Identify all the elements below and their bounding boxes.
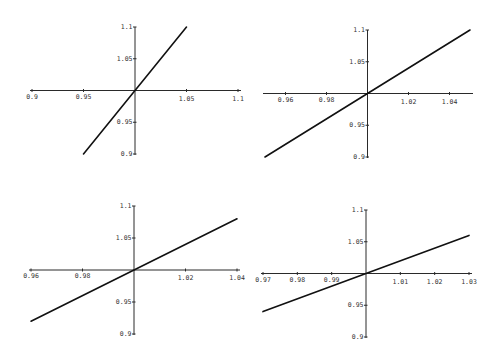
x-tick-label: 0.9 (26, 93, 38, 101)
x-tick-label: 0.99 (324, 276, 340, 284)
x-tick-label: 1.02 (401, 98, 417, 106)
x-tick-label: 1.04 (442, 98, 458, 106)
y-tick-label: 1.05 (116, 234, 132, 242)
x-tick-label: 0.96 (278, 96, 294, 104)
x-tick-label: 1.01 (393, 278, 409, 286)
panel-top-left: 0.90.951.051.11.11.050.950.9 (26, 23, 244, 158)
x-tick-label: 0.96 (23, 272, 39, 280)
panel-bottom-left: 0.960.981.021.041.11.050.950.9 (23, 202, 245, 338)
y-tick-label: 0.95 (116, 298, 132, 306)
x-tick-label: 0.95 (76, 93, 92, 101)
y-tick-label: 0.9 (121, 150, 133, 158)
y-tick-label: 0.95 (349, 121, 365, 129)
x-tick-label: 1.02 (178, 274, 194, 282)
y-tick-label: 1.1 (120, 202, 132, 210)
y-tick-label: 0.9 (120, 330, 132, 338)
y-tick-label: 0.95 (348, 301, 364, 309)
y-tick-label: 1.1 (353, 26, 365, 34)
y-tick-label: 0.9 (352, 333, 364, 341)
x-tick-label: 0.98 (319, 96, 335, 104)
panel-top-right: 0.960.981.021.041.11.050.950.9 (263, 26, 473, 161)
y-tick-label: 1.05 (348, 238, 364, 246)
figure-four-panels: 0.90.951.051.11.11.050.950.9 0.960.981.0… (0, 0, 500, 358)
y-tick-label: 1.05 (117, 55, 133, 63)
x-tick-label: 0.97 (255, 276, 271, 284)
panel-bottom-right: 0.970.980.991.011.021.031.11.050.950.9 (255, 206, 477, 341)
x-tick-label: 1.04 (229, 274, 245, 282)
y-tick-label: 1.1 (352, 206, 364, 214)
x-tick-label: 1.05 (179, 95, 195, 103)
y-tick-label: 1.1 (121, 23, 133, 31)
x-tick-label: 0.98 (290, 276, 306, 284)
y-tick-label: 0.95 (117, 118, 133, 126)
x-tick-label: 1.03 (461, 278, 477, 286)
x-tick-label: 0.98 (75, 272, 91, 280)
x-tick-label: 1.1 (232, 95, 244, 103)
x-tick-label: 1.02 (427, 278, 443, 286)
y-tick-label: 1.05 (349, 58, 365, 66)
y-tick-label: 0.9 (353, 153, 365, 161)
